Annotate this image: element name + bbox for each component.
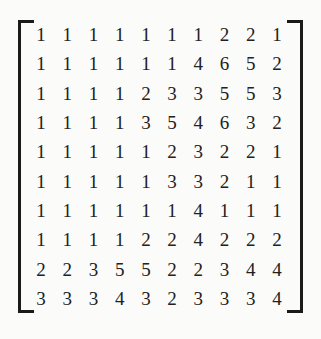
matrix-cell: 1 (89, 201, 99, 220)
left-bracket-stem (18, 20, 21, 313)
matrix-cell: 3 (141, 289, 151, 308)
matrix-cell: 3 (89, 260, 99, 279)
matrix-cell: 2 (141, 84, 151, 103)
matrix-cell: 3 (141, 113, 151, 132)
matrix-cell: 1 (115, 142, 125, 161)
matrix-cell: 3 (220, 260, 230, 279)
matrix-cell: 1 (115, 54, 125, 73)
matrix-cell: 2 (246, 25, 256, 44)
matrix-cell: 2 (220, 142, 230, 161)
right-bracket-stem (300, 20, 303, 313)
matrix-cell: 1 (115, 230, 125, 249)
matrix-grid: 1111111221111111465211112335531111354632… (28, 20, 290, 313)
matrix-cell: 1 (89, 25, 99, 44)
matrix-cell: 4 (194, 54, 204, 73)
matrix-cell: 3 (194, 84, 204, 103)
right-bracket (287, 20, 303, 313)
matrix-cell: 1 (63, 230, 73, 249)
matrix-cell: 2 (220, 230, 230, 249)
matrix-cell: 1 (89, 84, 99, 103)
matrix-cell: 1 (167, 25, 177, 44)
matrix-cell: 1 (63, 172, 73, 191)
matrix-cell: 1 (141, 142, 151, 161)
matrix-cell: 1 (36, 142, 46, 161)
matrix-cell: 1 (89, 113, 99, 132)
matrix-cell: 5 (220, 84, 230, 103)
matrix-cell: 3 (272, 84, 282, 103)
matrix-cell: 1 (115, 201, 125, 220)
matrix-cell: 2 (141, 230, 151, 249)
matrix-cell: 1 (194, 25, 204, 44)
matrix-cell: 2 (167, 142, 177, 161)
matrix-cell: 2 (246, 230, 256, 249)
matrix-cell: 1 (89, 230, 99, 249)
matrix-cell: 5 (141, 260, 151, 279)
matrix-cell: 1 (63, 25, 73, 44)
matrix-cell: 1 (115, 113, 125, 132)
matrix-cell: 2 (167, 260, 177, 279)
matrix-cell: 1 (272, 25, 282, 44)
matrix-cell: 5 (167, 113, 177, 132)
matrix-cell: 1 (141, 201, 151, 220)
matrix-cell: 3 (36, 289, 46, 308)
matrix-cell: 1 (36, 172, 46, 191)
matrix-cell: 3 (194, 172, 204, 191)
matrix-cell: 1 (36, 84, 46, 103)
matrix-cell: 1 (272, 201, 282, 220)
matrix-cell: 1 (246, 201, 256, 220)
matrix-cell: 3 (89, 289, 99, 308)
matrix-cell: 2 (194, 260, 204, 279)
matrix-cell: 6 (220, 113, 230, 132)
matrix-cell: 2 (167, 230, 177, 249)
matrix-cell: 1 (36, 25, 46, 44)
matrix-cell: 2 (167, 289, 177, 308)
matrix-cell: 4 (194, 230, 204, 249)
matrix-cell: 5 (246, 54, 256, 73)
matrix-cell: 4 (272, 260, 282, 279)
matrix-cell: 2 (272, 54, 282, 73)
matrix-cell: 1 (36, 54, 46, 73)
matrix-cell: 1 (167, 201, 177, 220)
matrix-cell: 1 (89, 172, 99, 191)
matrix-cell: 1 (272, 172, 282, 191)
matrix-figure: 1111111221111111465211112335531111354632… (0, 0, 321, 339)
matrix-cell: 1 (141, 54, 151, 73)
matrix-cell: 1 (272, 142, 282, 161)
matrix-cell: 2 (246, 142, 256, 161)
matrix-cell: 4 (272, 289, 282, 308)
matrix-cell: 1 (115, 84, 125, 103)
matrix-cell: 6 (220, 54, 230, 73)
matrix-cell: 3 (246, 289, 256, 308)
matrix-cell: 3 (167, 172, 177, 191)
matrix-cell: 2 (272, 230, 282, 249)
matrix-cell: 1 (36, 201, 46, 220)
matrix-cell: 1 (141, 25, 151, 44)
matrix-cell: 4 (194, 201, 204, 220)
matrix-cell: 1 (115, 25, 125, 44)
matrix-cell: 1 (63, 113, 73, 132)
matrix-cell: 2 (220, 172, 230, 191)
matrix-cell: 3 (194, 142, 204, 161)
matrix-cell: 3 (194, 289, 204, 308)
matrix-cell: 3 (63, 289, 73, 308)
right-bracket-bottom-serif (287, 310, 303, 313)
matrix-cell: 2 (36, 260, 46, 279)
matrix-cell: 1 (89, 54, 99, 73)
matrix-cell: 1 (167, 54, 177, 73)
matrix-cell: 1 (63, 54, 73, 73)
matrix-cell: 1 (63, 84, 73, 103)
matrix-cell: 1 (89, 142, 99, 161)
matrix-cell: 4 (246, 260, 256, 279)
matrix-cell: 5 (246, 84, 256, 103)
matrix-cell: 1 (220, 201, 230, 220)
matrix-cell: 1 (63, 142, 73, 161)
matrix-cell: 1 (115, 172, 125, 191)
matrix-cell: 2 (220, 25, 230, 44)
matrix-cell: 1 (36, 113, 46, 132)
matrix-cell: 1 (246, 172, 256, 191)
matrix-cell: 3 (246, 113, 256, 132)
matrix-cell: 2 (272, 113, 282, 132)
matrix-cell: 2 (63, 260, 73, 279)
matrix-cell: 3 (220, 289, 230, 308)
matrix-cell: 4 (194, 113, 204, 132)
